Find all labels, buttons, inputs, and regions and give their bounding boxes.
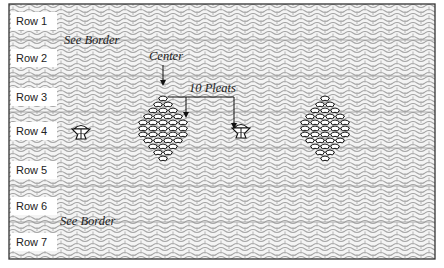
center-label: Center: [149, 49, 183, 64]
row-label-7: Row 7: [11, 233, 57, 251]
see-border-note-top: See Border: [64, 33, 119, 48]
see-border-note-bottom: See Border: [60, 214, 115, 229]
row-label-6: Row 6: [11, 197, 57, 215]
row-label-2: Row 2: [11, 49, 57, 67]
pleats-label: 10 Pleats: [189, 81, 236, 96]
row-label-4: Row 4: [11, 122, 57, 140]
row-label-1: Row 1: [11, 12, 57, 30]
row-label-3: Row 3: [11, 88, 57, 106]
row-label-5: Row 5: [11, 161, 57, 179]
smocking-diagram: Row 1 Row 2 Row 3 Row 4 Row 5 Row 6 Row …: [0, 0, 444, 268]
